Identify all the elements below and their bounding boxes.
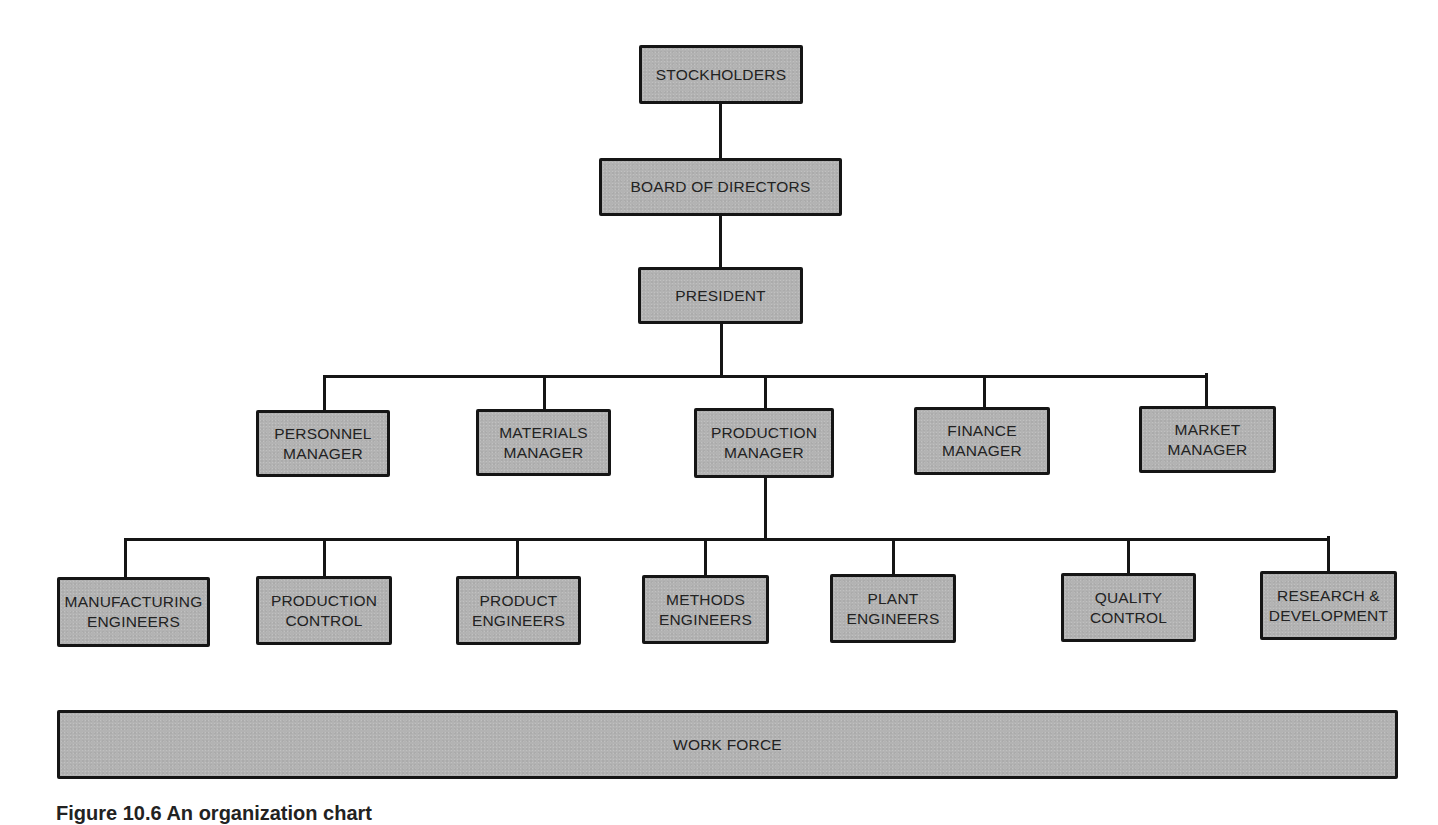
connector-stockholders-board (719, 102, 722, 159)
connector-president-down (720, 322, 723, 378)
connector-production-down (764, 477, 767, 540)
connector-board-president (719, 214, 722, 269)
node-manufacturing-engineers: MANUFACTURING ENGINEERS (57, 577, 210, 647)
connector-dept-product-engineers (516, 539, 519, 577)
node-market-manager: MARKET MANAGER (1139, 406, 1276, 473)
node-label: PERSONNEL MANAGER (274, 424, 371, 464)
node-personnel-manager: PERSONNEL MANAGER (256, 410, 390, 477)
node-methods-engineers: METHODS ENGINEERS (642, 575, 769, 644)
connector-dept-quality (1127, 538, 1130, 574)
node-production-manager: PRODUCTION MANAGER (694, 408, 834, 478)
connector-dept-methods (704, 538, 707, 576)
node-production-control: PRODUCTION CONTROL (256, 576, 392, 645)
node-label: MARKET MANAGER (1168, 420, 1248, 460)
node-label: BOARD OF DIRECTORS (631, 177, 811, 197)
node-label: PRODUCTION CONTROL (271, 591, 377, 631)
connector-dept-manufacturing (124, 539, 127, 578)
connector-manager-market (1205, 373, 1208, 408)
node-label: RESEARCH & DEVELOPMENT (1269, 586, 1388, 626)
node-label: PRODUCTION MANAGER (711, 423, 817, 463)
node-label: PLANT ENGINEERS (846, 589, 939, 629)
node-president: PRESIDENT (638, 267, 803, 324)
node-finance-manager: FINANCE MANAGER (914, 407, 1050, 475)
figure-caption: Figure 10.6 An organization chart (56, 802, 372, 825)
node-label: MATERIALS MANAGER (499, 423, 588, 463)
connector-dept-research (1327, 536, 1330, 573)
node-stockholders: STOCKHOLDERS (639, 45, 803, 104)
node-research-development: RESEARCH & DEVELOPMENT (1260, 571, 1397, 640)
node-quality-control: QUALITY CONTROL (1061, 573, 1196, 642)
connector-dept-production-control (323, 539, 326, 577)
node-label: STOCKHOLDERS (656, 65, 786, 85)
node-label: FINANCE MANAGER (942, 421, 1022, 461)
connector-departments-bus (124, 538, 1330, 541)
node-label: PRODUCT ENGINEERS (472, 591, 565, 631)
connector-manager-production (764, 375, 767, 409)
connector-manager-personnel (323, 375, 326, 411)
node-work-force: WORK FORCE (57, 710, 1398, 779)
node-board-of-directors: BOARD OF DIRECTORS (599, 158, 842, 216)
node-label: QUALITY CONTROL (1090, 588, 1167, 628)
connector-manager-materials (543, 375, 546, 410)
node-product-engineers: PRODUCT ENGINEERS (456, 576, 581, 645)
node-label: WORK FORCE (673, 735, 782, 755)
connector-manager-finance (983, 375, 986, 409)
node-label: PRESIDENT (675, 286, 766, 306)
connector-dept-plant (892, 538, 895, 575)
node-label: MANUFACTURING ENGINEERS (65, 592, 203, 632)
node-materials-manager: MATERIALS MANAGER (476, 409, 611, 476)
node-label: METHODS ENGINEERS (659, 590, 752, 630)
node-plant-engineers: PLANT ENGINEERS (830, 574, 956, 643)
